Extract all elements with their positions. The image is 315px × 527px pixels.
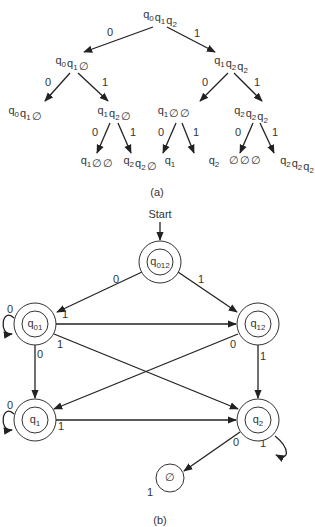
transition-label: 1 bbox=[260, 350, 266, 362]
transition-label: 1 bbox=[147, 486, 153, 498]
tree-node-n111: q2q2q2 bbox=[280, 154, 314, 175]
tree-node-n1: q1q2q2 bbox=[214, 54, 248, 75]
tree-edge-label: 1 bbox=[102, 76, 108, 88]
transition-label: 1 bbox=[62, 308, 68, 320]
caption-b: (b) bbox=[153, 514, 166, 526]
tree-edge-label: 1 bbox=[254, 76, 260, 88]
tree-node-root: q0q1q2 bbox=[143, 8, 177, 29]
subset-tree: 010101010101q0q1q2q0q1∅q1q2q2q0q1∅q1q2∅q… bbox=[8, 8, 314, 175]
tree-edge-label: 1 bbox=[130, 126, 136, 138]
tree-edge-root-n1 bbox=[167, 27, 215, 52]
tree-edge-label: 0 bbox=[45, 76, 51, 88]
tree-edge-n11-n110 bbox=[240, 123, 253, 153]
self-loop-q1 bbox=[3, 411, 14, 430]
tree-edge-n10-n100 bbox=[163, 123, 176, 153]
transition-label: 1 bbox=[58, 420, 64, 432]
dfa-graph: 0101010101011q012q01q12q1q2∅ bbox=[3, 222, 286, 498]
transition-label: 0 bbox=[233, 436, 239, 448]
tree-edge-label: 1 bbox=[193, 126, 199, 138]
transition-label: 1 bbox=[57, 338, 63, 350]
tree-node-n011: q2q2∅ bbox=[123, 154, 156, 172]
tree-node-n11: q2q2q2 bbox=[234, 104, 268, 125]
transition-q012-q12 bbox=[178, 272, 237, 312]
tree-edge-label: 1 bbox=[272, 126, 278, 138]
state-q012: q012 bbox=[139, 241, 181, 283]
tree-edge-label: 0 bbox=[158, 126, 164, 138]
state-q12: q12 bbox=[237, 303, 279, 345]
tree-node-n010: q1∅∅ bbox=[81, 154, 114, 169]
tree-node-n100: q1 bbox=[165, 154, 176, 169]
tree-node-n10: q1∅∅ bbox=[158, 104, 191, 119]
tree-edge-label: 0 bbox=[202, 76, 208, 88]
tree-node-n101: q2 bbox=[209, 154, 220, 169]
transition-label: 0 bbox=[37, 348, 43, 360]
transition-label: 0 bbox=[113, 273, 119, 285]
tree-edge-label: 1 bbox=[194, 27, 200, 39]
tree-edge-label: 0 bbox=[235, 126, 241, 138]
tree-node-n110: ∅∅∅ bbox=[229, 154, 261, 166]
transition-q012-q01 bbox=[57, 272, 142, 312]
subset-construction-diagram: 010101010101q0q1q2q0q1∅q1q2q2q0q1∅q1q2∅q… bbox=[0, 0, 315, 527]
tree-node-n01: q1q2∅ bbox=[97, 104, 130, 122]
tree-node-n0: q0q1∅ bbox=[55, 54, 88, 72]
tree-edge-root-n0 bbox=[84, 27, 153, 52]
self-loop-q2 bbox=[275, 436, 286, 457]
transition-label: 1 bbox=[198, 273, 204, 285]
state-q2: q2 bbox=[237, 399, 279, 441]
transition-label: 0 bbox=[7, 399, 13, 411]
tree-node-n00: q0q1∅ bbox=[8, 104, 41, 122]
tree-edge-label: 0 bbox=[107, 26, 113, 38]
transition-q2-empty bbox=[184, 432, 240, 471]
self-loop-q01 bbox=[3, 315, 14, 334]
caption-a: (a) bbox=[150, 186, 163, 198]
tree-edge-n01-n010 bbox=[97, 123, 110, 153]
tree-edge-label: 0 bbox=[92, 126, 98, 138]
state-q01: q01 bbox=[14, 303, 56, 345]
state-empty: ∅ bbox=[156, 464, 184, 492]
transition-label: 0 bbox=[7, 303, 13, 315]
state-label: ∅ bbox=[165, 471, 175, 483]
start-label: Start bbox=[148, 208, 171, 220]
transition-label: 0 bbox=[230, 338, 236, 350]
state-q1: q1 bbox=[14, 399, 56, 441]
